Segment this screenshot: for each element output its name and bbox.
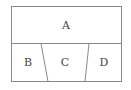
left-slanted-divider [41,44,48,82]
region-label-b: B [24,56,32,69]
region-label-c: C [61,56,69,69]
region-label-d: D [100,56,109,69]
right-slanted-divider [85,44,89,82]
region-label-a: A [61,19,71,32]
region-diagram: A B C D [0,0,131,90]
